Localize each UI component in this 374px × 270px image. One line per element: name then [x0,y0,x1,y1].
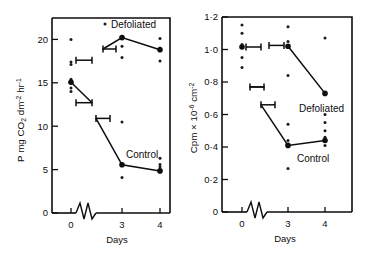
y-ticks-left [52,39,58,213]
lsd-bars-left [76,46,116,122]
svg-text:Defoliated: Defoliated [111,19,156,30]
svg-text:4: 4 [322,218,327,229]
y-axis-title-right: Cpm × 10-6 cm-2 [188,82,199,153]
svg-text:15: 15 [37,77,48,88]
svg-text:Cpm × 10-6 cm-2: Cpm × 10-6 cm-2 [188,82,199,153]
svg-text:3: 3 [119,219,124,230]
svg-text:1·2: 1·2 [204,11,218,22]
label-marker-dot [104,23,107,26]
series-label-defoliated-right: Defoliated [299,103,344,114]
x-axis-break-left [76,203,96,219]
svg-text:0·8: 0·8 [204,76,218,87]
svg-text:0·6: 0·6 [204,109,218,120]
series-label-control-left: Control [126,149,158,160]
photosynthesis-panel: 0 5 10 15 20 0 3 4 Days P [15,18,170,245]
series-defoliated-right [239,43,328,96]
svg-text:5: 5 [43,164,48,175]
svg-text:0: 0 [43,207,48,218]
svg-text:0·4: 0·4 [204,141,218,152]
svg-text:0: 0 [68,219,73,230]
cpm-panel: 0 0·2 0·4 0·6 0·8 1·0 1·2 0 3 4 Days [188,11,352,244]
x-axis-title-left: Days [106,234,128,245]
y-axis-title-left: P mg CO2 dm-2 hr-1 [15,78,28,162]
x-tick-labels-left: 0 3 4 [68,219,162,230]
x-tick-labels-right: 0 3 4 [239,218,327,229]
svg-text:P mg CO: P mg CO2 dm-2 hr-1 [15,78,28,162]
y-ticks-right [222,17,228,212]
lsd-bar [246,44,261,51]
svg-text:10: 10 [37,121,48,132]
figure-svg: 0 5 10 15 20 0 3 4 Days P [0,0,374,270]
y-tick-labels-left: 0 5 10 15 20 [37,34,48,219]
lsd-bar [76,57,92,64]
svg-text:1·0: 1·0 [204,44,218,55]
y-tick-labels-right: 0 0·2 0·4 0·6 0·8 1·0 1·2 [204,11,218,217]
lsd-bars-right [246,42,284,108]
series-label-control-right: Control [297,153,329,164]
series-defoliated-left [103,35,163,53]
x-axis-break-right [247,202,267,218]
series-label-defoliated-left: Defoliated [104,19,157,30]
svg-text:0·2: 0·2 [204,174,218,185]
lsd-bar [103,46,116,53]
svg-text:20: 20 [37,34,48,45]
figure-container: 0 5 10 15 20 0 3 4 Days P [0,0,374,270]
svg-text:4: 4 [157,219,162,230]
series-control-right [250,87,328,148]
svg-text:0: 0 [213,206,218,217]
lsd-bar [269,42,284,49]
x-axis-title-right: Days [274,233,296,244]
svg-text:3: 3 [285,218,290,229]
svg-text:0: 0 [239,218,244,229]
